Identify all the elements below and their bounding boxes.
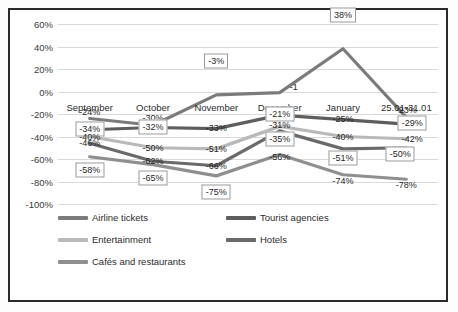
data-label: -25% [331, 113, 354, 124]
legend-swatch-icon [226, 238, 256, 242]
data-label: -51% [205, 143, 228, 154]
x-axis-category-label: January [326, 102, 360, 113]
data-label: -23% [395, 105, 418, 116]
data-label: -75% [202, 184, 231, 199]
y-axis-tick-label: -100% [26, 199, 53, 210]
x-axis-category-label: November [194, 102, 238, 113]
legend-swatch-icon [226, 216, 256, 220]
chart-frame: 60%40%20%0%-20%-40%-60%-80%-100% Septemb… [8, 8, 448, 302]
data-label: -78% [395, 180, 418, 191]
series-line-2 [90, 126, 407, 149]
data-label: -35% [265, 131, 294, 146]
data-label: -56% [268, 151, 291, 162]
x-axis-category-label: October [136, 102, 170, 113]
data-label: -1 [289, 81, 299, 92]
legend-swatch-icon [58, 238, 88, 242]
y-axis-tick-label: 60% [34, 19, 53, 30]
y-axis-tick-label: 40% [34, 41, 53, 52]
legend-item-2[interactable]: Entertainment [58, 234, 151, 245]
legend-item-label: Cafés and restaurants [92, 256, 185, 267]
data-label: -40% [331, 131, 354, 142]
data-label: -66% [205, 160, 228, 171]
data-label: -62% [141, 156, 164, 167]
data-label: -58% [75, 162, 104, 177]
legend-swatch-icon [58, 216, 88, 220]
legend-swatch-icon [58, 260, 88, 264]
data-label: -3% [204, 53, 228, 68]
data-label: -46% [78, 138, 101, 149]
data-label: -33% [205, 122, 228, 133]
data-label: -42% [401, 133, 424, 144]
legend-item-3[interactable]: Hotels [226, 234, 287, 245]
chart-legend: Airline ticketsTourist agenciesEntertain… [58, 212, 378, 292]
legend-item-0[interactable]: Airline tickets [58, 212, 148, 223]
chart-screenshot: 60%40%20%0%-20%-40%-60%-80%-100% Septemb… [0, 0, 458, 312]
y-axis-tick-label: 0% [39, 86, 53, 97]
data-label: 38% [330, 7, 356, 22]
series-lines [58, 24, 438, 204]
data-label: -50% [386, 146, 415, 161]
series-line-0 [90, 49, 407, 126]
legend-item-4[interactable]: Cafés and restaurants [58, 256, 185, 267]
data-label: -24% [78, 106, 101, 117]
legend-item-label: Tourist agencies [260, 212, 329, 223]
data-label: -50% [141, 142, 164, 153]
y-axis-tick-label: -40% [31, 131, 53, 142]
legend-item-label: Hotels [260, 234, 287, 245]
legend-item-label: Airline tickets [92, 212, 148, 223]
legend-item-label: Entertainment [92, 234, 151, 245]
data-label: -51% [328, 150, 357, 165]
data-label: -32% [138, 119, 167, 134]
gridline [58, 204, 438, 205]
plot-area: 60%40%20%0%-20%-40%-60%-80%-100% Septemb… [58, 24, 438, 204]
y-axis-tick-label: 20% [34, 64, 53, 75]
y-axis-tick-label: -60% [31, 154, 53, 165]
data-label: -29% [398, 116, 427, 131]
y-axis-tick-label: -80% [31, 176, 53, 187]
data-label: -65% [138, 170, 167, 185]
data-label: -31% [268, 120, 291, 131]
y-axis-tick-label: -20% [31, 109, 53, 120]
data-label: -74% [331, 175, 354, 186]
legend-item-1[interactable]: Tourist agencies [226, 212, 329, 223]
